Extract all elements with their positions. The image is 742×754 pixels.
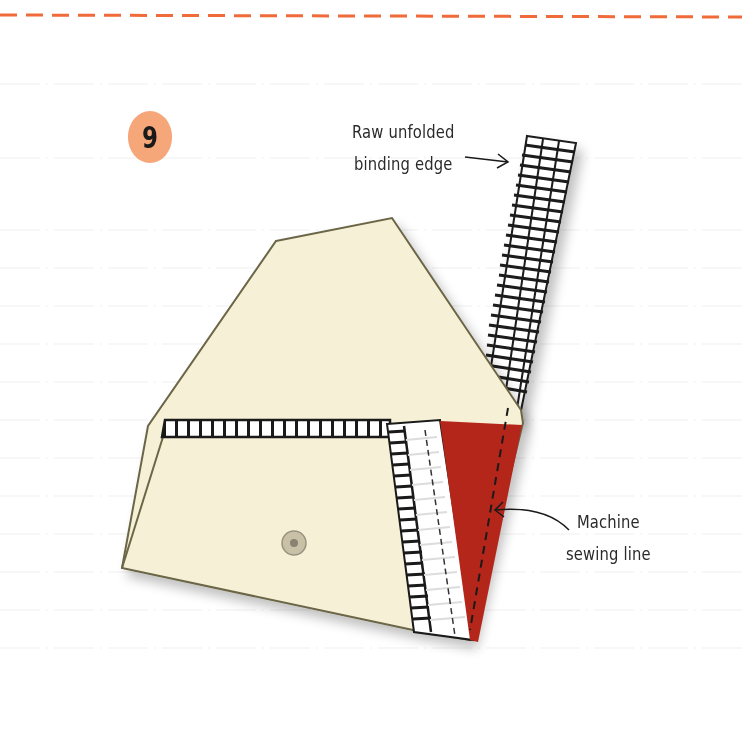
machine-line-label: Machine sewing line — [566, 506, 651, 570]
arrow-machine-line-icon — [495, 502, 569, 530]
machine-line-label-line2: sewing line — [566, 538, 651, 570]
raw-edge-label-line1: Raw unfolded — [352, 116, 455, 148]
arrow-raw-edge-icon — [465, 154, 508, 168]
step-number-badge: 9 — [128, 111, 172, 163]
top-dashed-border — [0, 15, 742, 17]
binding-strip-horizontal — [162, 420, 390, 437]
raw-edge-label: Raw unfolded binding edge — [352, 116, 455, 180]
machine-line-label-line1: Machine — [566, 506, 651, 538]
raw-edge-label-line2: binding edge — [352, 148, 455, 180]
diagram-svg — [0, 0, 742, 754]
snap-button-icon — [282, 531, 306, 555]
instruction-diagram: 9 Raw unfolded binding edge Machine sewi… — [0, 0, 742, 754]
